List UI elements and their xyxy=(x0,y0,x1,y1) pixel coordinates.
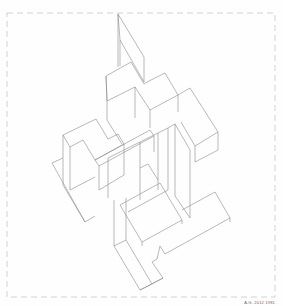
artist-signature: A.G. 2012 1981 xyxy=(244,300,275,305)
axonometric-drawing xyxy=(0,0,283,306)
drawing-sheet: A.G. 2012 1981 xyxy=(0,0,283,306)
dashed-frame xyxy=(7,13,275,297)
structure-lines xyxy=(52,14,230,290)
